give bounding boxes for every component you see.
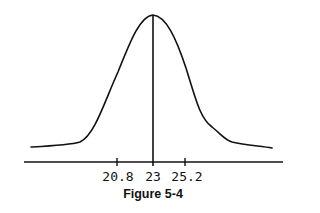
tick-label-20.8: 20.8 xyxy=(102,169,133,184)
figure-caption: Figure 5‑4 xyxy=(123,187,183,201)
tick-label-23: 23 xyxy=(145,169,161,184)
tick-label-25.2: 25.2 xyxy=(171,169,202,184)
bell-curve xyxy=(31,15,272,148)
